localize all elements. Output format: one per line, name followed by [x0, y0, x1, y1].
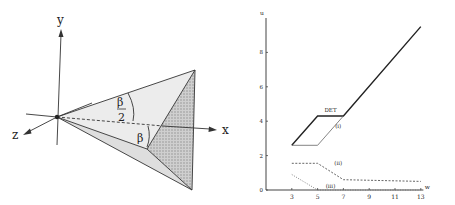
- x-tick-label: 3: [290, 193, 294, 200]
- x-tick-label: 5: [316, 193, 320, 200]
- z-arrow-icon: [23, 129, 32, 136]
- x-tick-label: 11: [391, 193, 399, 200]
- pyramid-diagram: y x z β 2 β: [0, 0, 240, 205]
- series-ii: [292, 163, 421, 181]
- x-tick-label: 13: [417, 193, 425, 200]
- y-tick-label: 6: [260, 84, 264, 90]
- pyramid-svg: y x z β 2 β: [0, 0, 240, 205]
- y-tick-label: 8: [260, 49, 264, 55]
- annotation-label: (i): [335, 123, 341, 129]
- line-chart: 3579111302468uwDET(i)(ii)(iii): [250, 0, 455, 205]
- y-tick-label: 0: [260, 187, 264, 193]
- series-DET: [292, 27, 421, 146]
- chart-svg: 3579111302468uwDET(i)(ii)(iii): [250, 0, 455, 205]
- annotation-label: (ii): [334, 160, 342, 166]
- x-axis-label: x: [222, 123, 229, 137]
- z-axis-label: z: [12, 128, 18, 142]
- annotation-label: DET: [324, 107, 336, 113]
- x-tick-label: 9: [367, 193, 371, 200]
- y-tick-label: 2: [260, 153, 264, 159]
- y-tick-label: 4: [260, 118, 264, 124]
- series-i: [292, 116, 344, 145]
- y-axis-label: y: [56, 13, 64, 27]
- y-axis-label: u: [260, 9, 264, 16]
- x-tick-label: 7: [341, 193, 345, 200]
- origin-dot: [55, 115, 59, 119]
- y-arrow-icon: [59, 29, 64, 37]
- annotation-label: (iii): [326, 183, 336, 189]
- x-axis-label: w: [425, 183, 431, 190]
- series-iii: [292, 175, 421, 191]
- half-beta-numerator: β: [117, 96, 123, 109]
- x-arrow-icon: [209, 127, 218, 133]
- half-beta-denominator: 2: [118, 111, 125, 124]
- beta-label: β: [137, 132, 143, 145]
